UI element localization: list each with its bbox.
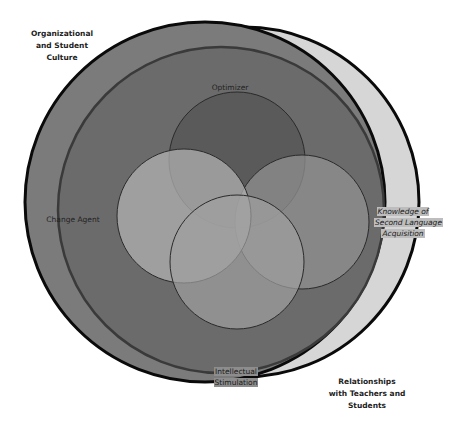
label-change-agent: Change Agent (38, 214, 108, 226)
label-line: Knowledge of (377, 207, 430, 216)
label-line: Stimulation (214, 378, 259, 387)
label-line: Second Language (374, 218, 443, 227)
label-line: and Student (22, 40, 102, 52)
label-relationships: Relationships with Teachers and Students (322, 376, 412, 412)
label-line: with Teachers and (322, 388, 412, 400)
label-organizational-culture: Organizational and Student Culture (22, 28, 102, 64)
label-text: Change Agent (46, 215, 99, 224)
label-line: Students (322, 400, 412, 412)
circle-bottom (170, 195, 304, 329)
label-text: Optimizer (212, 83, 249, 92)
label-line: Culture (22, 52, 102, 64)
label-optimizer: Optimizer (200, 82, 260, 94)
label-second-language: Knowledge of Second Language Acquisition (374, 206, 432, 239)
label-line: Intellectual (214, 367, 258, 376)
label-intellectual-stimulation: Intellectual Stimulation (210, 366, 262, 388)
label-line: Acquisition (381, 229, 424, 238)
label-line: Organizational (22, 28, 102, 40)
label-line: Relationships (322, 376, 412, 388)
